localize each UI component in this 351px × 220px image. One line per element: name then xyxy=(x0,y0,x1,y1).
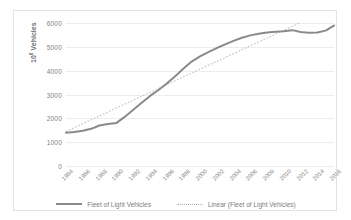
y-axis-tick-label: 2000 xyxy=(47,115,62,122)
legend-swatch-solid-icon xyxy=(56,203,82,205)
x-axis-tick-label: 2010 xyxy=(278,168,292,182)
legend-swatch-dotted-icon xyxy=(177,204,203,205)
x-axis-tick-label: 2004 xyxy=(228,168,242,182)
x-axis-tick-label: 1986 xyxy=(77,168,91,182)
x-axis-tick-label: 1998 xyxy=(178,168,192,182)
series-layer xyxy=(66,23,334,166)
y-axis-tick-label: 6000 xyxy=(47,20,62,27)
x-axis-tick-label: 2016 xyxy=(329,168,343,182)
chart-legend: Fleet of Light VehiclesLinear (Fleet of … xyxy=(14,197,338,211)
y-axis-tick-label: 0 xyxy=(58,163,62,170)
data-series-line xyxy=(66,26,334,133)
y-axis-tick-label: 1000 xyxy=(47,139,62,146)
x-axis-tick-label: 1992 xyxy=(128,168,142,182)
plot-area xyxy=(66,23,334,166)
x-axis-tick-label: 1990 xyxy=(111,168,125,182)
x-axis-tick-label: 1996 xyxy=(161,168,175,182)
x-axis-tick-label: 1984 xyxy=(61,168,75,182)
legend-label: Linear (Fleet of Light Vehicles) xyxy=(208,201,296,208)
legend-item[interactable]: Linear (Fleet of Light Vehicles) xyxy=(177,201,296,208)
y-axis-tick-labels: 6000500040003000200010000 xyxy=(14,23,62,166)
x-axis-tick-label: 1994 xyxy=(144,168,158,182)
x-axis-tick-label: 2002 xyxy=(211,168,225,182)
x-axis-tick-label: 2014 xyxy=(312,168,326,182)
trendline-linear xyxy=(66,23,301,132)
y-axis-tick-label: 5000 xyxy=(47,43,62,50)
x-axis-tick-label: 2000 xyxy=(195,168,209,182)
x-axis-tick-label: 1988 xyxy=(94,168,108,182)
y-axis-tick-label: 3000 xyxy=(47,91,62,98)
chart-container: 106 Vehicles 6000500040003000200010000 1… xyxy=(13,10,337,211)
gridline xyxy=(66,166,334,167)
x-axis-tick-label: 2008 xyxy=(262,168,276,182)
y-axis-tick-label: 4000 xyxy=(47,67,62,74)
legend-item[interactable]: Fleet of Light Vehicles xyxy=(56,201,151,208)
x-axis-tick-label: 2006 xyxy=(245,168,259,182)
legend-label: Fleet of Light Vehicles xyxy=(87,201,151,208)
x-axis-tick-labels: 1984198619881990199219941996199820002002… xyxy=(66,168,334,198)
x-axis-tick-label: 2012 xyxy=(295,168,309,182)
